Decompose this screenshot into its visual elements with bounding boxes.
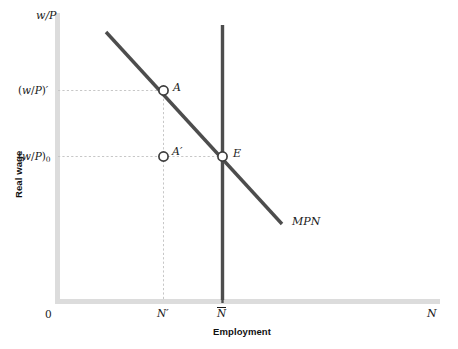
point-e-label: E xyxy=(233,148,241,159)
x-tick-label-n-bar: N xyxy=(217,307,226,319)
y-tick-label-wp-prime: (w/P)′ xyxy=(18,85,48,96)
y-tick-label-wp-zero: (w/P)0 xyxy=(18,151,51,163)
origin-label: 0 xyxy=(45,309,52,320)
y-axis-symbol: w/P xyxy=(36,10,57,21)
x-tick-label-n-prime: N′ xyxy=(157,308,169,319)
plot-canvas xyxy=(0,0,458,349)
x-axis-symbol: N xyxy=(427,308,437,319)
economics-chart-figure: w/P Real wage (w/P)′ (w/P)0 0 N′ N N Emp… xyxy=(0,0,458,349)
point-a-prime-marker xyxy=(159,152,168,161)
x-axis-title: Employment xyxy=(213,327,271,337)
point-a-label: A xyxy=(173,82,181,93)
mpn-curve xyxy=(106,32,282,224)
point-a-marker xyxy=(159,86,168,95)
mpn-curve-label: MPN xyxy=(292,216,320,227)
point-a-prime-label: A′ xyxy=(172,146,182,157)
point-e-marker xyxy=(218,152,227,161)
